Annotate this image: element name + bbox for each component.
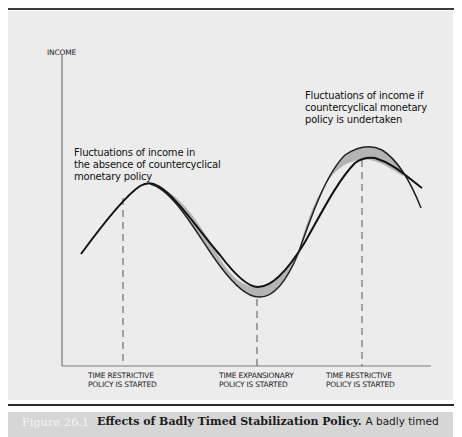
annotation-no-policy: Fluctuations of income in the absence of…: [74, 147, 221, 183]
bottom-rule: [8, 404, 454, 406]
y-axis-label: INCOME: [47, 48, 76, 57]
figure-caption: Effects of Badly Timed Stabilization Pol…: [97, 415, 439, 428]
marker-label-line: TIME RESTRICTIVE: [88, 371, 157, 380]
marker-label-line: POLICY IS STARTED: [88, 380, 157, 389]
figure-title: Effects of Badly Timed Stabilization Pol…: [97, 415, 362, 428]
figure-number: Figure 26.1: [22, 416, 89, 429]
marker-label-line: TIME EXPANSIONARY: [219, 371, 294, 380]
annotation-line: policy is undertaken: [305, 114, 427, 126]
marker-label-expansionary: TIME EXPANSIONARY POLICY IS STARTED: [219, 371, 294, 389]
annotation-line: countercyclical monetary: [305, 102, 427, 114]
marker-label-restrictive-2: TIME RESTRICTIVE POLICY IS STARTED: [326, 371, 395, 389]
marker-label-line: TIME RESTRICTIVE: [326, 371, 395, 380]
marker-label-line: POLICY IS STARTED: [326, 380, 395, 389]
caption-text: A badly timed: [366, 415, 439, 427]
annotation-line: Fluctuations of income if: [305, 90, 427, 102]
annotation-with-policy: Fluctuations of income if countercyclica…: [305, 90, 427, 126]
marker-label-line: POLICY IS STARTED: [219, 380, 294, 389]
annotation-line: monetary policy: [74, 171, 221, 183]
marker-label-restrictive-1: TIME RESTRICTIVE POLICY IS STARTED: [88, 371, 157, 389]
annotation-line: the absence of countercyclical: [74, 159, 221, 171]
annotation-line: Fluctuations of income in: [74, 147, 221, 159]
